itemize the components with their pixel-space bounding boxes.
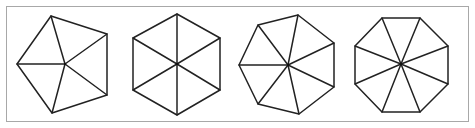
- heptagon-spoke: [258, 65, 288, 104]
- pentagon-shape: [17, 16, 107, 113]
- hexagon-spoke: [133, 64, 177, 90]
- heptagon-spoke: [288, 15, 298, 65]
- pentagon-spoke: [65, 34, 107, 64]
- heptagon-spoke: [288, 43, 334, 65]
- hexagon-center-point: [176, 63, 178, 65]
- heptagon-spoke: [258, 25, 288, 65]
- octagon-center-point: [400, 63, 402, 65]
- octagon-shape: [355, 18, 448, 112]
- hexagon-shape: [133, 14, 220, 115]
- pentagon-spoke: [65, 64, 107, 95]
- heptagon-center-point: [287, 64, 289, 66]
- pentagon-spoke: [52, 64, 65, 113]
- heptagon-spoke: [288, 65, 299, 114]
- hexagon-spoke: [177, 38, 220, 64]
- hexagon-spoke: [177, 64, 220, 90]
- hexagon-spoke: [133, 38, 177, 64]
- heptagon-spoke: [288, 65, 334, 87]
- pentagon-center-point: [64, 63, 66, 65]
- pentagon-spoke: [51, 16, 65, 64]
- heptagon-shape: [239, 15, 334, 114]
- polygon-diagram: [0, 0, 475, 128]
